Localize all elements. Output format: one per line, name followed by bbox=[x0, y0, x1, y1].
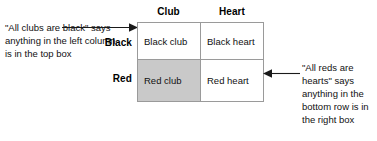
row-header-black: Black bbox=[76, 37, 132, 48]
row-header-red: Red bbox=[76, 73, 132, 84]
annotation-right-text: "All reds are hearts" says anything in t… bbox=[302, 61, 377, 126]
column-header-club: Club bbox=[137, 6, 200, 17]
cell-black-heart: Black heart bbox=[201, 23, 263, 60]
annotation-left-arrow bbox=[60, 20, 140, 36]
column-header-heart: Heart bbox=[200, 6, 264, 17]
matrix-table: Black club Black heart Red club Red hear… bbox=[137, 22, 264, 102]
cell-red-club: Red club bbox=[138, 60, 201, 101]
venn-matrix-diagram: "All clubs are black" says anything in t… bbox=[0, 0, 377, 141]
annotation-right-arrow bbox=[262, 66, 302, 82]
cell-red-heart: Red heart bbox=[201, 60, 263, 101]
cell-black-club: Black club bbox=[138, 23, 201, 60]
